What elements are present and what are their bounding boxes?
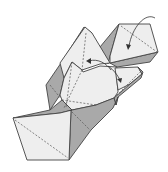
origami-figure (0, 0, 168, 172)
bottom-pentagon (13, 110, 72, 160)
